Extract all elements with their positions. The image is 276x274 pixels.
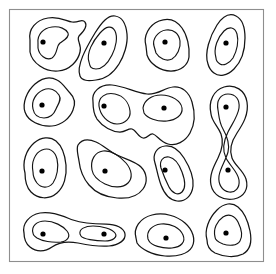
peak-dot xyxy=(223,104,228,109)
contour-blob xyxy=(24,138,66,198)
peak-dot xyxy=(39,168,44,173)
peak-dot xyxy=(162,167,167,172)
peak-dot xyxy=(161,105,166,110)
peak-dot xyxy=(223,230,228,235)
contour-figure xyxy=(0,0,276,274)
peak-dot xyxy=(101,231,106,236)
peak-dot xyxy=(223,40,228,45)
contour-outer-path xyxy=(24,138,66,198)
peak-dot xyxy=(225,167,230,172)
peak-dot xyxy=(40,39,45,44)
peak-dot xyxy=(101,40,106,45)
peak-dot xyxy=(163,235,168,240)
peak-dot xyxy=(39,102,44,107)
peak-dot xyxy=(40,231,45,236)
peak-dot xyxy=(102,168,107,173)
peak-dot xyxy=(162,39,167,44)
contour-canvas xyxy=(0,0,276,274)
peak-dot xyxy=(101,103,106,108)
